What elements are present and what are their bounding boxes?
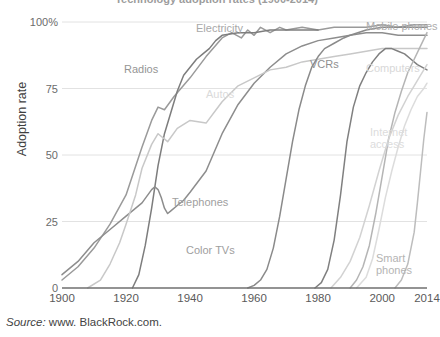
- series-label-telephones: Telephones: [172, 196, 228, 208]
- series-label-internet-access: Internet access: [370, 126, 426, 150]
- gridlines: [62, 22, 427, 222]
- series-label-electricity: Electricity: [196, 22, 243, 34]
- series-label-computers: Computers: [366, 62, 420, 74]
- source-url: www. BlackRock.com.: [49, 316, 162, 328]
- series-label-smart-phones: Smart phones: [376, 252, 432, 276]
- series-label-radios: Radios: [124, 63, 158, 75]
- series-label-mobile-phones: Mobile phones: [366, 20, 438, 32]
- source-note: Source: www. BlackRock.com.: [6, 316, 162, 328]
- series-label-autos: Autos: [206, 88, 234, 100]
- series-label-color-tvs: Color TVs: [186, 244, 235, 256]
- series-label-vcrs: VCRs: [310, 58, 339, 70]
- source-prefix: Source:: [6, 316, 46, 328]
